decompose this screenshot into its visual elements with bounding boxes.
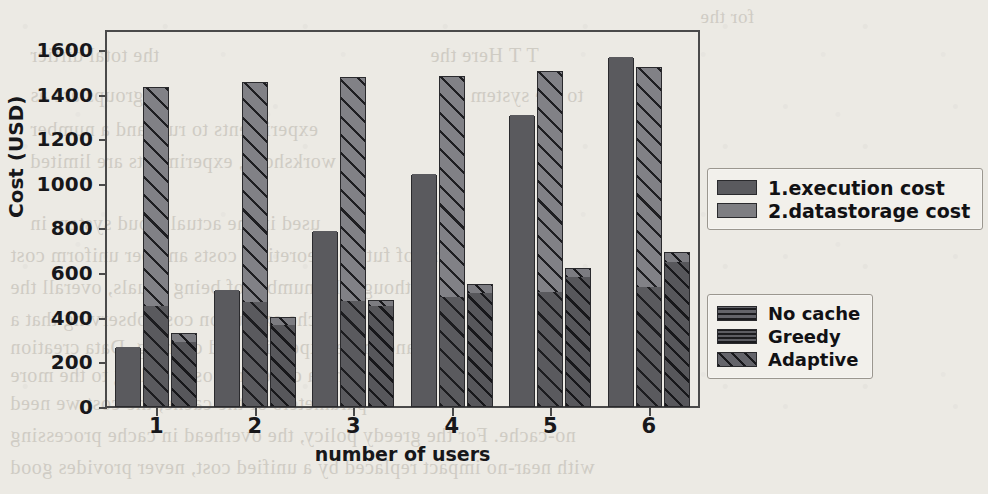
bar-adaptive-group-3 xyxy=(368,300,394,407)
legend-item[interactable]: 1.execution cost xyxy=(717,176,970,199)
legend-swatch-execution-cost-icon xyxy=(717,180,757,195)
bar-segment-execution-cost xyxy=(538,292,562,406)
legend-label: 2.datastorage cost xyxy=(768,200,970,222)
x-axis-tick-label: 1 xyxy=(149,414,164,438)
bar-segment-execution-cost xyxy=(172,342,196,406)
legend-item[interactable]: Greedy xyxy=(717,325,860,348)
y-axis-tick-label: 1200 xyxy=(8,127,93,151)
x-axis-tick-label: 5 xyxy=(543,414,558,438)
bar-segment-execution-cost xyxy=(412,174,436,406)
y-axis-tick-label: 1000 xyxy=(8,172,93,196)
legend-swatch-no-cache-icon xyxy=(717,306,757,321)
bar-segment-execution-cost xyxy=(215,290,239,406)
bar-segment-execution-cost xyxy=(566,277,590,406)
legend-swatch-adaptive-icon xyxy=(717,352,757,367)
legend-cache-methods[interactable]: No cache Greedy Adaptive xyxy=(707,294,873,379)
y-axis-tick-label: 0 xyxy=(8,395,93,419)
legend-label: No cache xyxy=(768,303,860,324)
bar-segment-datastorage-cost xyxy=(440,77,464,299)
bar-segment-datastorage-cost xyxy=(538,72,562,294)
legend-swatch-datastorage-cost-icon xyxy=(717,203,757,218)
bar-greedy-group-3 xyxy=(340,77,366,407)
bar-no_cache-group-6 xyxy=(608,58,634,407)
bar-adaptive-group-4 xyxy=(467,284,493,407)
y-axis-label: Cost (USD) xyxy=(4,96,28,218)
legend-item[interactable]: Adaptive xyxy=(717,348,860,371)
legend-cost-components[interactable]: 1.execution cost 2.datastorage cost xyxy=(707,168,983,230)
bar-no_cache-group-5 xyxy=(509,116,535,407)
bar-segment-execution-cost xyxy=(144,306,168,406)
bar-no_cache-group-1 xyxy=(115,348,141,407)
legend-label: 1.execution cost xyxy=(768,177,945,199)
bar-greedy-group-2 xyxy=(242,82,268,407)
bar-greedy-group-4 xyxy=(439,76,465,407)
bar-segment-execution-cost xyxy=(510,115,534,406)
bar-adaptive-group-6 xyxy=(664,252,690,407)
bar-segment-execution-cost xyxy=(665,262,689,406)
bar-greedy-group-5 xyxy=(537,71,563,407)
bar-segment-execution-cost xyxy=(313,231,337,406)
x-axis-tick-label: 3 xyxy=(346,414,361,438)
y-axis-tick-label: 200 xyxy=(8,350,93,374)
legend-item[interactable]: No cache xyxy=(717,302,860,325)
y-axis-tick-label: 1600 xyxy=(8,38,93,62)
bar-segment-execution-cost xyxy=(440,297,464,406)
x-axis-tick-mark xyxy=(649,408,651,416)
y-axis-tick-label: 800 xyxy=(8,216,93,240)
bar-segment-execution-cost xyxy=(243,302,267,406)
plot-area xyxy=(107,32,698,407)
x-axis-tick-mark xyxy=(353,408,355,416)
x-axis-tick-mark xyxy=(156,408,158,416)
bar-segment-execution-cost xyxy=(341,301,365,406)
x-axis-tick-mark xyxy=(550,408,552,416)
bar-segment-datastorage-cost xyxy=(637,68,661,289)
bar-segment-execution-cost xyxy=(271,325,295,406)
legend-swatch-greedy-icon xyxy=(717,329,757,344)
y-axis-tick-label: 1400 xyxy=(8,83,93,107)
bar-segment-datastorage-cost xyxy=(144,88,168,308)
bar-adaptive-group-5 xyxy=(565,268,591,408)
bar-segment-datastorage-cost xyxy=(243,83,267,304)
bar-no_cache-group-2 xyxy=(214,291,240,407)
bar-no_cache-group-3 xyxy=(312,232,338,407)
legend-label: Adaptive xyxy=(768,349,859,370)
bar-segment-execution-cost xyxy=(116,347,140,406)
y-axis-tick-label: 600 xyxy=(8,261,93,285)
bar-chart-figure: Cost (USD) 02004006008001000120014001600… xyxy=(0,0,988,494)
x-axis-tick-label: 2 xyxy=(247,414,262,438)
legend-item[interactable]: 2.datastorage cost xyxy=(717,199,970,222)
legend-label: Greedy xyxy=(768,326,841,347)
x-axis-label: number of users xyxy=(105,443,700,465)
x-axis-tick-label: 6 xyxy=(641,414,656,438)
bar-segment-execution-cost xyxy=(468,293,492,406)
bar-segment-execution-cost xyxy=(609,57,633,406)
bar-segment-execution-cost xyxy=(637,287,661,406)
bar-greedy-group-6 xyxy=(636,67,662,407)
x-axis-tick-mark xyxy=(452,408,454,416)
y-axis-tick-label: 400 xyxy=(8,306,93,330)
x-axis-tick-mark xyxy=(255,408,257,416)
bar-segment-execution-cost xyxy=(369,306,393,406)
x-axis-tick-label: 4 xyxy=(444,414,459,438)
bar-segment-datastorage-cost xyxy=(341,78,365,303)
bar-no_cache-group-4 xyxy=(411,175,437,407)
bar-adaptive-group-2 xyxy=(270,317,296,407)
bar-greedy-group-1 xyxy=(143,87,169,407)
bar-adaptive-group-1 xyxy=(171,333,197,407)
